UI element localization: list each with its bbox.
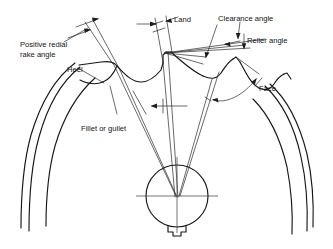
clearance-angle-leader: [205, 22, 241, 58]
label-relief-angle: Relier angle: [247, 36, 288, 45]
land-dimension-arrow-left: [137, 22, 157, 27]
rotation-direction-arrow: [151, 99, 188, 113]
land-dimension-lines: [151, 16, 172, 62]
cutter-tooth-geometry-diagram: Positive redial rake angle Heel Fillet o…: [0, 0, 333, 249]
positive-rake-angle-lines: [64, 20, 120, 70]
blade-arm-right-inner: [265, 86, 307, 231]
label-heel: Heel: [67, 65, 83, 74]
face-angle-arc: [205, 57, 259, 102]
label-face: Face: [259, 84, 276, 93]
label-positive-rake-angle-line2: rake angle: [20, 50, 55, 59]
fillet-gullet-leader: [110, 86, 146, 114]
radial-construction-lines: [113, 52, 219, 197]
label-clearance-angle: Clearance angle: [218, 14, 273, 23]
label-land: Land: [174, 15, 191, 24]
label-positive-rake-angle-line1: Positive redial: [20, 40, 68, 49]
blade-arm-right-trailing: [253, 99, 292, 234]
label-fillet-or-gullet: Fillet or gullet: [81, 124, 127, 133]
diagram-root: Positive redial rake angle Heel Fillet o…: [0, 0, 333, 249]
heel-edge: [80, 66, 117, 84]
